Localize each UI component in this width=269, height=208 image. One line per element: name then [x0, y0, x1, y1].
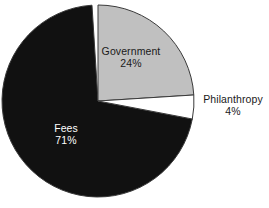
- pie-slices: [2, 5, 194, 197]
- pie-label-fees-name: Fees: [31, 122, 101, 134]
- pie-chart: Government 24% Fees 71% Philanthropy 4%: [0, 0, 269, 208]
- pie-label-philanthropy: Philanthropy 4%: [197, 93, 269, 117]
- pie-label-government-value: 24%: [91, 57, 171, 69]
- pie-label-government-name: Government: [91, 45, 171, 57]
- pie-label-philanthropy-name: Philanthropy: [197, 93, 269, 105]
- pie-label-government: Government 24%: [91, 45, 171, 69]
- pie-label-fees-value: 71%: [31, 134, 101, 146]
- pie-label-philanthropy-value: 4%: [197, 105, 269, 117]
- pie-label-fees: Fees 71%: [31, 122, 101, 146]
